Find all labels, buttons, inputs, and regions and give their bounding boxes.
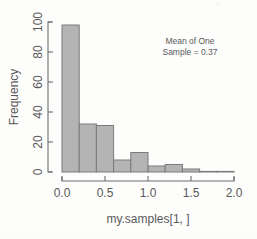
histogram-figure: 100 80 60 40 20 0 0	[0, 0, 257, 239]
y-axis: 100 80 60 40 20 0	[31, 12, 53, 176]
histogram-bar	[62, 25, 79, 172]
x-axis: 0.0 0.5 1.0 1.5 2.0	[54, 176, 243, 200]
y-axis-title: Frequency	[7, 69, 21, 126]
y-axis-line	[48, 22, 52, 172]
x-tick-label-0.5: 0.5	[97, 186, 114, 200]
x-tick-label-2.0: 2.0	[226, 186, 243, 200]
histogram-bar	[148, 166, 165, 172]
annotation-line-2: Sample = 0.37	[162, 47, 217, 57]
plot-annotation: Mean of One Sample = 0.37	[162, 36, 217, 57]
histogram-bar	[114, 160, 131, 172]
x-tick-label-0.0: 0.0	[54, 186, 71, 200]
annotation-line-1: Mean of One	[165, 36, 214, 46]
histogram-svg: 100 80 60 40 20 0 0	[0, 0, 257, 239]
y-tick-label-60: 60	[31, 75, 45, 89]
histogram-bar	[200, 171, 217, 172]
y-tick-label-80: 80	[31, 45, 45, 59]
x-tick-label-1.5: 1.5	[183, 186, 200, 200]
histogram-bar	[96, 126, 113, 173]
histogram-bar	[217, 171, 234, 172]
histogram-bar	[182, 169, 199, 172]
histogram-bar	[165, 165, 182, 173]
x-tick-label-1.0: 1.0	[140, 186, 157, 200]
y-tick-label-40: 40	[31, 105, 45, 119]
y-tick-label-0: 0	[31, 168, 45, 175]
y-tick-label-20: 20	[31, 135, 45, 149]
y-tick-label-100: 100	[31, 12, 45, 32]
histogram-bar	[79, 124, 96, 172]
x-axis-title: my.samples[1, ]	[106, 212, 189, 226]
histogram-bar	[131, 153, 148, 173]
